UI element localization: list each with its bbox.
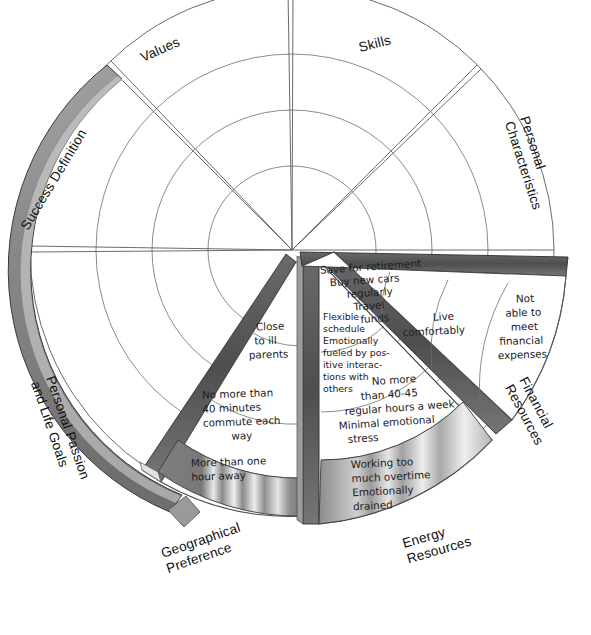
sector-label-values: Values xyxy=(138,34,182,65)
life-balance-wheel-diagram: Skills Personal Characteristics Financia… xyxy=(0,0,591,635)
sector-label-personal-characteristics: Personal Characteristics xyxy=(502,114,560,211)
wheel-canvas: Skills Personal Characteristics Financia… xyxy=(0,0,591,635)
wheel-spokes xyxy=(30,0,554,252)
sector-label-skills: Skills xyxy=(357,32,392,54)
sector-label-energy-resources: Energy Resources xyxy=(401,518,473,566)
sector-label-geographical-preference: Geographical Preference xyxy=(159,518,251,576)
